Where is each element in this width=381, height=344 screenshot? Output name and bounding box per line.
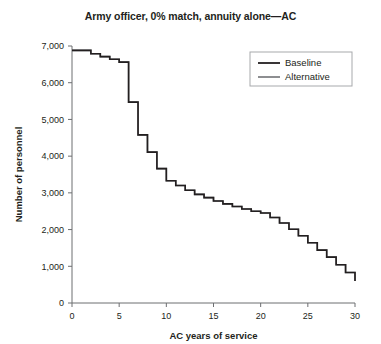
y-tick-label: 5,000 bbox=[41, 115, 64, 125]
chart-legend: BaselineAlternative bbox=[250, 52, 352, 86]
x-tick-label: 0 bbox=[69, 311, 74, 321]
legend-label-baseline: Baseline bbox=[285, 57, 321, 68]
y-tick-label: 2,000 bbox=[41, 225, 64, 235]
y-axis-title: Number of personnel bbox=[13, 127, 24, 223]
x-axis-ticks: 051015202530 bbox=[69, 303, 360, 321]
y-axis-ticks: 01,0002,0003,0004,0005,0006,0007,000 bbox=[41, 41, 72, 308]
x-tick-label: 20 bbox=[256, 311, 266, 321]
legend-label-alternative: Alternative bbox=[285, 71, 330, 82]
y-tick-label: 7,000 bbox=[41, 41, 64, 51]
x-tick-label: 30 bbox=[350, 311, 360, 321]
x-tick-label: 5 bbox=[117, 311, 122, 321]
y-tick-label: 0 bbox=[59, 298, 64, 308]
chart-container: Army officer, 0% match, annuity alone—AC… bbox=[0, 0, 381, 344]
y-tick-label: 3,000 bbox=[41, 188, 64, 198]
y-tick-label: 6,000 bbox=[41, 78, 64, 88]
x-tick-label: 25 bbox=[303, 311, 313, 321]
x-tick-label: 15 bbox=[208, 311, 218, 321]
chart-plot-area: 01,0002,0003,0004,0005,0006,0007,000 051… bbox=[0, 0, 381, 344]
x-axis-title: AC years of service bbox=[169, 330, 257, 341]
y-tick-label: 1,000 bbox=[41, 262, 64, 272]
y-tick-label: 4,000 bbox=[41, 151, 64, 161]
x-tick-label: 10 bbox=[161, 311, 171, 321]
